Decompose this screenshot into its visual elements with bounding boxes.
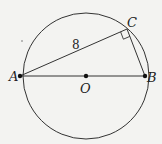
- segment-ac: [20, 29, 127, 76]
- label-b: B: [146, 70, 157, 85]
- segment-cb: [127, 29, 145, 76]
- geometry-diagram: A B C O 8: [0, 0, 162, 144]
- label-c: C: [127, 15, 137, 30]
- stray-dot: [21, 40, 22, 41]
- point-a: [18, 74, 22, 78]
- label-a: A: [8, 69, 18, 84]
- point-o: [84, 74, 88, 78]
- label-o: O: [80, 81, 91, 96]
- label-ac-length: 8: [72, 38, 80, 52]
